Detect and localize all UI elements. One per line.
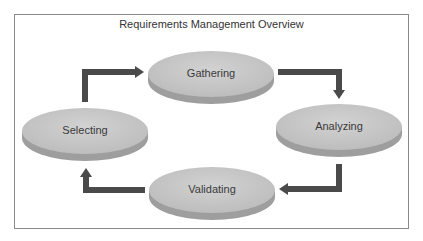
node-label-validating: Validating: [152, 183, 272, 195]
node-label-gathering: Gathering: [151, 67, 271, 79]
arrow-analyzing-to-validating: [279, 164, 342, 195]
node-label-analyzing: Analyzing: [279, 120, 399, 132]
arrow-selecting-to-gathering: [82, 66, 144, 102]
arrow-gathering-to-analyzing: [278, 69, 345, 99]
node-label-selecting: Selecting: [25, 124, 145, 136]
arrow-validating-to-selecting: [80, 168, 145, 193]
